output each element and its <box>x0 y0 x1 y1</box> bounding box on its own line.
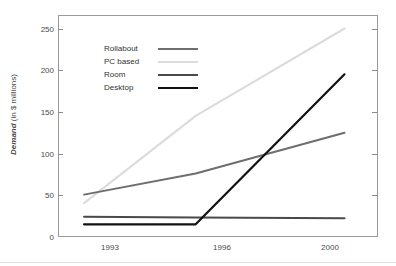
y-axis-title-emphasis: Demand <box>9 123 18 155</box>
chart-figure: Demand (in $ millions) 250 200 150 100 5… <box>0 0 396 266</box>
legend-swatch-room <box>158 74 198 76</box>
legend-item-room: Room <box>104 68 202 81</box>
y-tick-label-50: 50 <box>26 191 54 200</box>
legend-swatch-desktop <box>158 87 198 89</box>
x-tick-label-1996: 1996 <box>192 243 252 252</box>
x-tick-label-1993: 1993 <box>80 243 140 252</box>
legend-swatch-pc-based <box>158 61 198 63</box>
legend-item-rollabout: Rollabout <box>104 42 202 55</box>
y-tick-label-150: 150 <box>26 108 54 117</box>
series-line-room <box>84 217 344 219</box>
legend-item-desktop: Desktop <box>104 81 202 94</box>
series-line-rollabout <box>84 133 344 195</box>
y-axis-title: Demand (in $ millions) <box>2 62 24 172</box>
legend-swatch-rollabout <box>158 48 198 50</box>
chart-title <box>0 0 396 1</box>
y-tick-label-100: 100 <box>26 150 54 159</box>
legend-label-pc-based: PC based <box>104 57 156 66</box>
x-tick-label-2000: 2000 <box>300 243 360 252</box>
chart-legend: Rollabout PC based Room Desktop <box>104 42 202 94</box>
legend-item-pc-based: PC based <box>104 55 202 68</box>
y-tick-label-0: 0 <box>26 233 54 242</box>
y-axis-title-rest: (in $ millions) <box>9 74 18 123</box>
legend-label-rollabout: Rollabout <box>104 44 156 53</box>
y-tick-label-200: 200 <box>26 66 54 75</box>
bottom-divider <box>0 262 396 263</box>
legend-label-desktop: Desktop <box>104 83 156 92</box>
series-line-desktop <box>84 74 344 224</box>
y-tick-label-250: 250 <box>26 25 54 34</box>
legend-label-room: Room <box>104 70 156 79</box>
